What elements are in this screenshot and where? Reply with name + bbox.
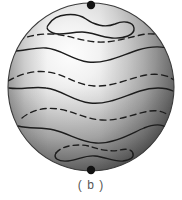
figure-caption: ( b ) [0, 178, 182, 192]
south-pole-dot [87, 166, 95, 174]
figure-panel: ( b ) [0, 0, 182, 200]
sphere-illustration [0, 0, 182, 200]
north-pole-dot [87, 1, 95, 9]
